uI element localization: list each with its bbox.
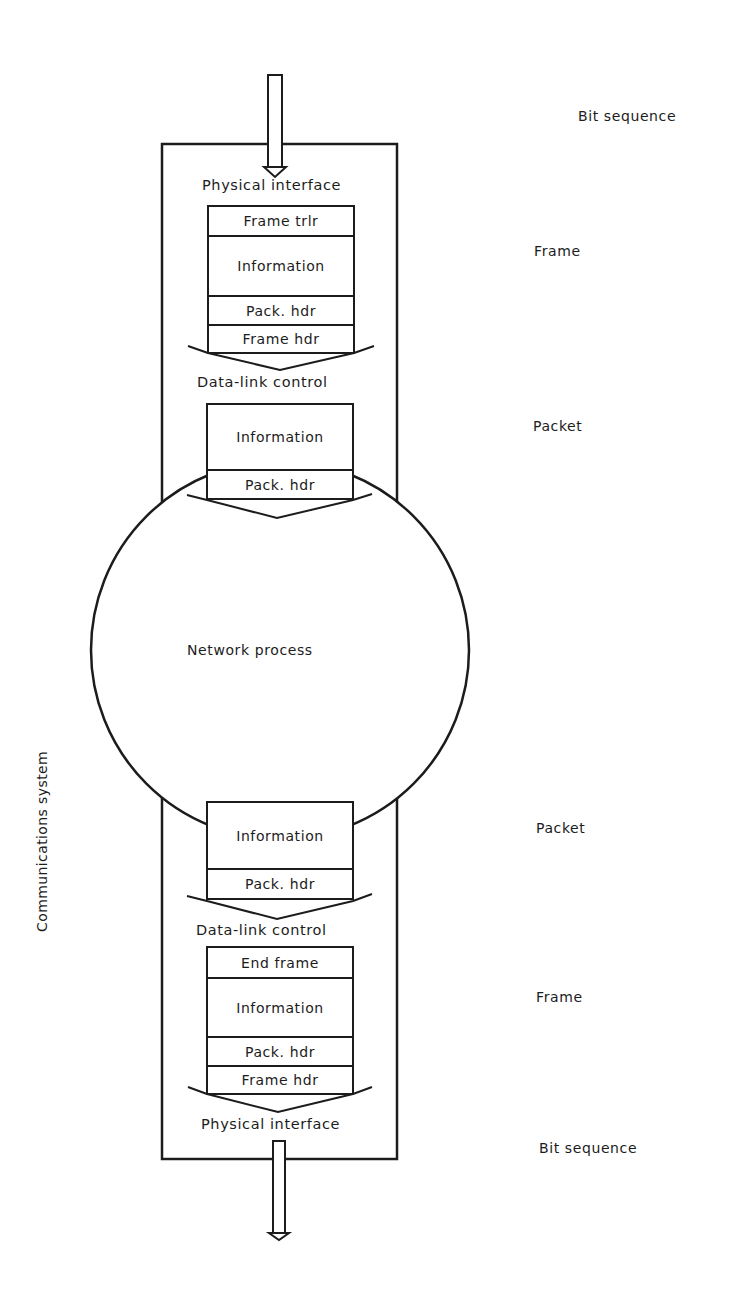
frame-information-cell: Information — [208, 236, 354, 296]
arrow-down-icon — [269, 1141, 289, 1240]
bit-sequence-label-top: Bit sequence — [578, 108, 676, 124]
frame-packet-header-cell: Pack. hdr — [208, 296, 354, 325]
frame-label-top: Frame — [534, 243, 581, 259]
bottom-physical-interface-label: Physical interface — [201, 1116, 340, 1132]
frame-trailer-cell: Frame trlr — [208, 206, 354, 236]
frame-label-bottom: Frame — [536, 989, 583, 1005]
end-frame-cell: End frame — [207, 947, 353, 978]
top-data-link-control-label: Data-link control — [197, 374, 328, 390]
network-process-label: Network process — [187, 642, 313, 658]
frame-packet-header-cell: Pack. hdr — [207, 1037, 353, 1066]
arrow-down-icon — [264, 75, 286, 177]
packet-header-cell: Pack. hdr — [207, 869, 353, 899]
frame-header-cell: Frame hdr — [207, 1066, 353, 1094]
frame-header-cell: Frame hdr — [208, 325, 354, 353]
packet-label-bottom: Packet — [536, 820, 585, 836]
bottom-data-link-control-label: Data-link control — [196, 922, 327, 938]
packet-label-top: Packet — [533, 418, 582, 434]
packet-information-cell: Information — [207, 802, 353, 869]
packet-information-cell: Information — [207, 404, 353, 470]
diagram-canvas — [0, 0, 750, 1310]
bit-sequence-label-bottom: Bit sequence — [539, 1140, 637, 1156]
packet-header-cell: Pack. hdr — [207, 470, 353, 499]
communications-system-label: Communications system — [34, 751, 50, 932]
top-physical-interface-label: Physical interface — [202, 177, 341, 193]
frame-information-cell: Information — [207, 978, 353, 1037]
